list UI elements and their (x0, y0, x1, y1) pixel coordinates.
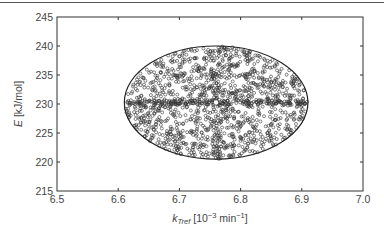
y-tick-label: 245 (35, 11, 53, 23)
y-axis-label: E [kJ/mol] (12, 81, 24, 127)
x-tick-label: 6.7 (172, 193, 187, 205)
y-tick-label: 235 (35, 69, 53, 81)
y-tick-label: 220 (35, 156, 53, 168)
x-tick-label: 6.8 (233, 193, 248, 205)
scatter-chart: 6.56.66.76.86.97.0 215220225230235240245… (0, 0, 384, 235)
y-tick-label: 215 (35, 185, 53, 197)
x-tick-label: 6.9 (294, 193, 309, 205)
y-tick-label: 230 (35, 98, 53, 110)
x-axis-label: kTref [10−3 min−1] (172, 211, 248, 226)
x-tick-label: 7.0 (356, 193, 371, 205)
y-tick-label: 240 (35, 40, 53, 52)
x-tick-label: 6.6 (111, 193, 126, 205)
y-tick-label: 225 (35, 127, 53, 139)
